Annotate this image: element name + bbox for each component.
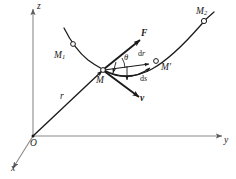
velocity-label-v: v (140, 94, 144, 104)
point-markers (32, 18, 207, 137)
marker-M1 (71, 42, 76, 47)
diagram-canvas (0, 0, 236, 179)
force-vector-F (104, 40, 140, 69)
point-label-M: M (96, 76, 104, 86)
displacement-label-dr: dr (138, 50, 145, 58)
origin-label: O (30, 139, 37, 149)
trajectory-curve (64, 12, 214, 76)
position-vector-r (33, 71, 102, 136)
x-axis-label: x (11, 164, 15, 174)
y-axis-label: y (224, 136, 228, 146)
point-label-M2: M2 (196, 7, 207, 17)
arclength-label-ds: ds (140, 75, 147, 83)
displacement-vector-dr (104, 64, 149, 70)
angle-label-theta: θ (124, 53, 128, 62)
marker-M (101, 68, 106, 73)
axis-group (13, 9, 222, 168)
marker-M2 (201, 18, 206, 23)
physics-vector-diagram: z y x O M1 M M′ M2 F v r dr ds θ (0, 0, 236, 179)
force-label-F: F (141, 29, 147, 39)
z-axis-label: z (37, 2, 41, 12)
point-label-M1: M1 (54, 51, 65, 61)
marker-M-prime (154, 59, 159, 64)
position-label-r: r (60, 92, 64, 102)
point-label-M-prime: M′ (161, 63, 171, 73)
